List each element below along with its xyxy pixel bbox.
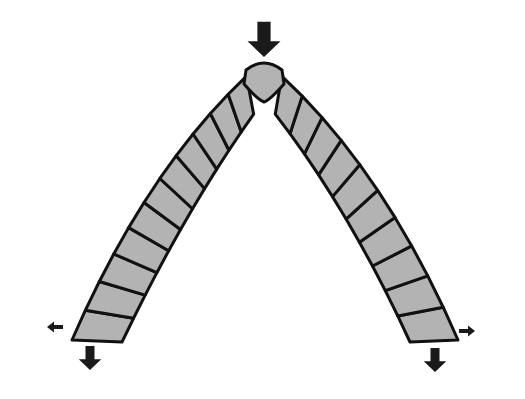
left-vertical-reaction-arrow-icon xyxy=(79,346,102,370)
arch-diagram: Pointed arch of voussoir blocks under lo… xyxy=(0,0,525,399)
voussoir-blocks xyxy=(72,63,458,342)
right-horizontal-thrust-arrow-icon xyxy=(459,326,475,337)
top-load-arrow-icon xyxy=(248,22,281,57)
arch-canvas xyxy=(0,0,525,399)
left-horizontal-thrust-arrow-icon xyxy=(47,322,63,333)
right-vertical-reaction-arrow-icon xyxy=(424,348,447,372)
